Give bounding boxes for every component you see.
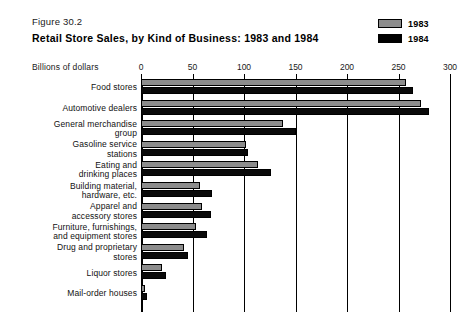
category-label-column: Food storesAutomotive dealersGeneral mer…: [0, 79, 137, 312]
bar-rows: [141, 79, 450, 312]
bar-1984-1: [141, 108, 429, 115]
bar-1983-6: [141, 203, 202, 210]
category-label-8: Drug and proprietarystores: [0, 243, 137, 262]
bar-group-7: [141, 223, 450, 239]
category-label-7: Furniture, furnishings,and equipment sto…: [0, 223, 137, 242]
category-label-3: Gasoline servicestations: [0, 140, 137, 159]
x-tick-label-100: 100: [237, 62, 251, 72]
bar-group-10: [141, 285, 450, 301]
category-label-5: Building material,hardware, etc.: [0, 182, 137, 201]
bar-1984-10: [141, 293, 147, 300]
category-label-2: General merchandisegroup: [0, 120, 137, 139]
chart-legend: 1983 1984: [378, 17, 470, 47]
legend-item-1984: 1984: [378, 32, 470, 45]
bar-1983-9: [141, 264, 162, 271]
category-label-6: Apparel andaccessory stores: [0, 202, 137, 221]
bar-1983-5: [141, 182, 200, 189]
bar-1984-7: [141, 231, 207, 238]
bar-1984-9: [141, 272, 166, 279]
bar-1984-0: [141, 87, 413, 94]
bar-1983-7: [141, 223, 196, 230]
category-label-4: Eating anddrinking places: [0, 161, 137, 180]
legend-swatch-1983: [378, 19, 402, 28]
bar-1984-5: [141, 190, 212, 197]
gridline-300: [450, 79, 451, 312]
bar-1984-4: [141, 169, 271, 176]
bar-group-3: [141, 141, 450, 157]
x-tick-label-300: 300: [443, 62, 457, 72]
bar-group-5: [141, 182, 450, 198]
category-label-1: Automotive dealers: [0, 104, 137, 114]
bar-1984-2: [141, 128, 296, 135]
bar-1983-4: [141, 161, 258, 168]
bar-1984-8: [141, 252, 188, 259]
x-tick-label-0: 0: [139, 62, 144, 72]
x-tick-label-50: 50: [188, 62, 197, 72]
legend-label-1984: 1984: [408, 34, 429, 44]
x-tick-label-250: 250: [391, 62, 405, 72]
bar-group-0: [141, 79, 450, 95]
chart-figure: Figure 30.2 Retail Store Sales, by Kind …: [0, 0, 474, 332]
bar-1983-8: [141, 244, 184, 251]
bar-1983-0: [141, 79, 406, 86]
bar-group-6: [141, 203, 450, 219]
bar-group-2: [141, 120, 450, 136]
legend-item-1983: 1983: [378, 17, 470, 30]
bar-group-8: [141, 244, 450, 260]
category-label-9: Liquor stores: [0, 269, 137, 279]
bar-1983-3: [141, 141, 246, 148]
bar-group-4: [141, 161, 450, 177]
legend-swatch-1984: [378, 34, 402, 43]
x-tick-label-150: 150: [288, 62, 302, 72]
x-tick-label-200: 200: [340, 62, 354, 72]
bar-1984-6: [141, 211, 211, 218]
bar-1983-2: [141, 120, 283, 127]
bar-group-1: [141, 100, 450, 116]
category-label-10: Mail-order houses: [0, 289, 137, 299]
bar-1984-3: [141, 149, 248, 156]
figure-number: Figure 30.2: [32, 16, 82, 27]
bar-1983-1: [141, 100, 421, 107]
bar-1983-10: [141, 285, 145, 292]
chart-title: Retail Store Sales, by Kind of Business:…: [32, 32, 319, 44]
legend-label-1983: 1983: [408, 19, 429, 29]
x-axis-tick-labels: 050100150200250300: [0, 62, 474, 74]
bar-group-9: [141, 264, 450, 280]
category-label-0: Food stores: [0, 83, 137, 93]
